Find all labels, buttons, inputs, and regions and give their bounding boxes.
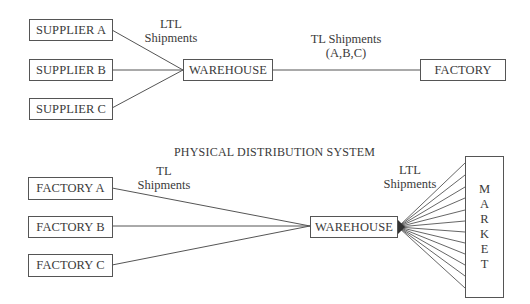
abc-text: (A,B,C): [311, 46, 382, 60]
supplier-b-box: SUPPLIER B: [29, 59, 113, 81]
factory-label: FACTORY: [434, 63, 491, 78]
inbound-tl-label: TL Shipments (A,B,C): [311, 32, 382, 60]
market-letter: E: [481, 242, 489, 257]
supplier-c-box: SUPPLIER C: [29, 98, 113, 120]
ltl-text: LTL: [384, 163, 437, 177]
supplier-c-label: SUPPLIER C: [36, 102, 106, 117]
tl-shipments-text: TL Shipments: [311, 32, 382, 46]
market-letter: K: [480, 227, 489, 242]
factory-a-box: FACTORY A: [28, 177, 113, 200]
factory-box: FACTORY: [420, 59, 506, 81]
outbound-tl-label: TL Shipments: [138, 164, 191, 192]
tl-text: TL: [138, 164, 191, 178]
factory-a-connector: [112, 188, 310, 226]
factory-b-label: FACTORY B: [36, 220, 104, 235]
supplier-a-label: SUPPLIER A: [36, 23, 106, 38]
outbound-warehouse-label: WAREHOUSE: [315, 220, 393, 235]
market-letter: R: [480, 212, 488, 227]
supplier-c-connector: [112, 70, 183, 108]
outbound-connectors: [112, 188, 310, 265]
shipments-text: Shipments: [384, 177, 437, 191]
outbound-warehouse-box: WAREHOUSE: [310, 216, 398, 238]
shipments-text: Shipments: [145, 31, 198, 45]
section-title: PHYSICAL DISTRIBUTION SYSTEM: [174, 145, 375, 160]
inbound-warehouse-label: WAREHOUSE: [189, 63, 267, 78]
factory-c-box: FACTORY C: [28, 254, 113, 277]
supplier-a-box: SUPPLIER A: [29, 19, 113, 41]
shipments-text: Shipments: [138, 178, 191, 192]
market-box: M A R K E T: [465, 156, 504, 298]
outbound-ltl-label: LTL Shipments: [384, 163, 437, 191]
market-letter: A: [480, 197, 489, 212]
factory-c-connector: [112, 226, 310, 265]
supplier-b-label: SUPPLIER B: [36, 63, 106, 78]
factory-a-label: FACTORY A: [36, 181, 104, 196]
ltl-text: LTL: [145, 17, 198, 31]
factory-b-box: FACTORY B: [28, 216, 113, 238]
inbound-warehouse-box: WAREHOUSE: [183, 59, 273, 81]
inbound-ltl-label: LTL Shipments: [145, 17, 198, 45]
factory-c-label: FACTORY C: [36, 258, 104, 273]
market-letter: M: [479, 182, 490, 197]
market-letter: T: [481, 257, 489, 272]
